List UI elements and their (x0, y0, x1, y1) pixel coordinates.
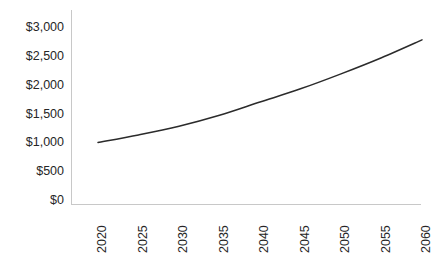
x-tick-label: 2050 (338, 225, 352, 253)
y-tick-label: $1,500 (26, 107, 64, 121)
x-axis-tick-labels: 2020 2025 2030 2035 2040 2045 2050 2055 … (95, 225, 433, 253)
y-tick-label: $500 (36, 164, 64, 178)
y-tick-label: $2,500 (26, 49, 64, 63)
x-tick-label: 2055 (379, 225, 393, 253)
y-tick-label: $1,000 (26, 135, 64, 149)
x-tick-label: 2040 (257, 225, 271, 253)
y-tick-label: $0 (50, 193, 64, 207)
line-chart: $0 $500 $1,000 $1,500 $2,000 $2,500 $3,0… (0, 0, 446, 267)
x-tick-label: 2020 (95, 225, 109, 253)
y-tick-label: $2,000 (26, 78, 64, 92)
x-tick-label: 2035 (217, 225, 231, 253)
y-tick-label: $3,000 (26, 20, 64, 34)
x-tick-label: 2025 (136, 225, 150, 253)
x-tick-label: 2045 (298, 225, 312, 253)
x-tick-label: 2030 (176, 225, 190, 253)
chart-figure: $0 $500 $1,000 $1,500 $2,000 $2,500 $3,0… (0, 0, 446, 267)
x-tick-label: 2060 (419, 225, 433, 253)
